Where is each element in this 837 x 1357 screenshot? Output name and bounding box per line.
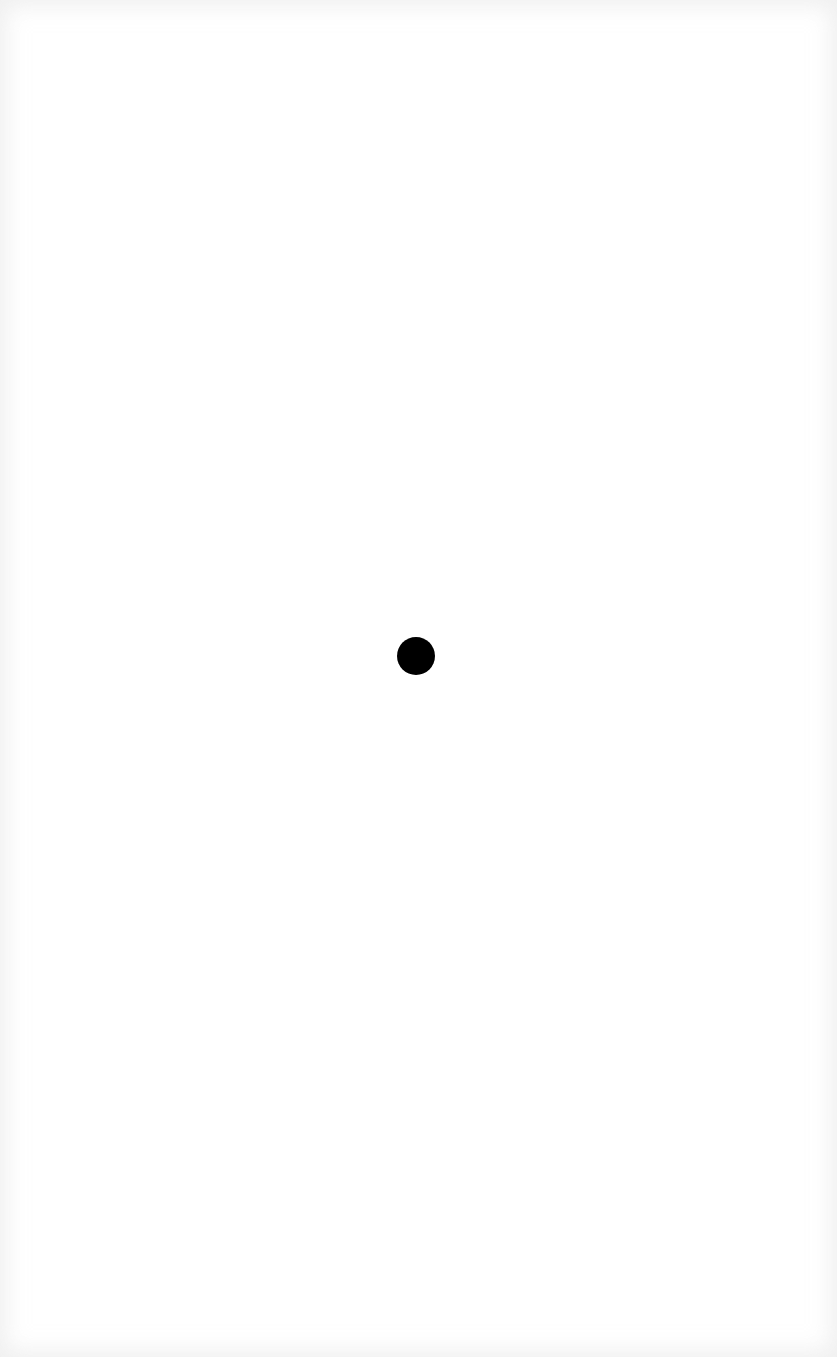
blank-canvas: [0, 0, 837, 1357]
black-dot-marker: [397, 637, 435, 675]
edge-vignette: [0, 0, 837, 1357]
